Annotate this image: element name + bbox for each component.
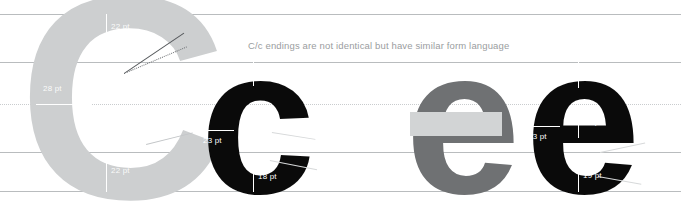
tick-grey-c-top [106,14,107,48]
label-grey-c-top-terminal: 22 pt [111,23,130,31]
tick-black-c-top [253,62,254,86]
tick-black-c-bottom [253,166,254,192]
tick-black-e-stem [522,126,560,127]
typography-comparison-figure: C 22 pt 28 pt 22 pt c 18 pt 23 pt 18 pt … [0,0,681,204]
tick-black-e-top [578,62,579,88]
figure-caption: C/c endings are not identical but have s… [248,40,509,51]
tick-black-e-crossbar [578,112,579,138]
tick-black-c-stem [196,130,234,131]
overlay-bar-grey-e [410,112,502,136]
label-black-c-bottom-terminal: 18 pt [258,173,277,181]
label-black-c-stem: 23 pt [203,137,222,145]
tick-grey-c-stem [36,104,92,105]
label-grey-c-bottom-terminal: 22 pt [111,167,130,175]
label-black-e-top-arch: 17 pt [583,70,602,78]
label-black-e-crossbar: 16 pt [583,118,602,126]
tick-grey-c-bottom [106,160,107,192]
tick-black-e-bottom [578,164,579,192]
label-black-c-top-terminal: 18 pt [258,70,277,78]
label-grey-c-stem: 28 pt [43,85,62,93]
label-black-e-stem: 23 pt [528,133,547,141]
